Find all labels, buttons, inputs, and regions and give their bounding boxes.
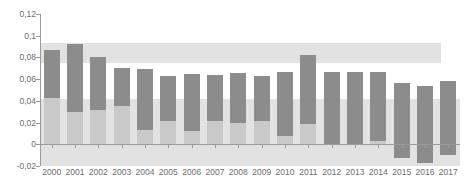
x-axis-tick — [355, 144, 356, 148]
y-axis-tick-label: -0,02 — [17, 162, 36, 171]
x-axis-tick — [308, 144, 309, 148]
x-axis-tick-label: 2015 — [390, 168, 413, 177]
bar-group — [114, 14, 130, 166]
bar-segment-upper — [114, 68, 130, 106]
x-axis-tick-label: 2011 — [297, 168, 320, 177]
y-axis-tick-label: 0,02 — [19, 119, 36, 128]
x-axis-tick — [52, 144, 53, 148]
x-axis-tick — [448, 144, 449, 148]
bar-segment-lower — [300, 124, 316, 145]
bar-segment-upper — [417, 86, 433, 163]
plot-area — [40, 14, 460, 166]
bar-segment-upper — [347, 72, 363, 145]
x-axis-tick — [122, 144, 123, 148]
bar-segment-upper — [184, 74, 200, 132]
bar-segment-lower — [207, 121, 223, 144]
x-axis-tick — [98, 144, 99, 148]
bar-segment-lower — [230, 123, 246, 145]
bar-segment-upper — [254, 76, 270, 122]
y-axis-tick-label: 0,06 — [19, 75, 36, 84]
bar-group — [300, 14, 316, 166]
y-axis-tick — [36, 166, 40, 167]
x-axis-tick — [75, 144, 76, 148]
y-axis-tick — [36, 101, 40, 102]
bar-group — [370, 14, 386, 166]
x-axis-tick-label: 2013 — [343, 168, 366, 177]
bar-segment-upper — [207, 75, 223, 122]
x-axis-tick — [262, 144, 263, 148]
bar-segment-upper — [324, 72, 340, 145]
x-axis-tick-label: 2002 — [87, 168, 110, 177]
bar-group — [90, 14, 106, 166]
bar-segment-upper — [44, 50, 60, 98]
x-axis-tick-label: 2000 — [40, 168, 63, 177]
bar-segment-lower — [90, 110, 106, 145]
x-axis-tick — [378, 144, 379, 148]
zero-axis-line — [40, 144, 460, 145]
bar-group — [207, 14, 223, 166]
x-axis-tick-label: 2014 — [367, 168, 390, 177]
x-axis-labels: 2000200120022003200420052006200720082009… — [40, 168, 460, 184]
y-axis-tick — [36, 123, 40, 124]
bar-group — [417, 14, 433, 166]
y-axis-tick — [36, 79, 40, 80]
x-axis-tick — [145, 144, 146, 148]
x-axis-tick-label: 2007 — [203, 168, 226, 177]
y-axis-tick-label: 0,08 — [19, 53, 36, 62]
y-axis-tick — [36, 14, 40, 15]
bar-group — [394, 14, 410, 166]
x-axis-tick-label: 2016 — [413, 168, 436, 177]
bar-group — [324, 14, 340, 166]
x-axis-tick — [215, 144, 216, 148]
y-axis-tick — [36, 144, 40, 145]
bar-chart: 0,120,10,080,060,040,020-0,02 2000200120… — [0, 0, 466, 191]
bar-segment-lower — [114, 106, 130, 144]
y-axis-tick-label: 0,12 — [19, 10, 36, 19]
bar-group — [254, 14, 270, 166]
x-axis-tick — [425, 144, 426, 148]
bar-group — [277, 14, 293, 166]
bar-group — [184, 14, 200, 166]
bar-segment-upper — [277, 72, 293, 136]
x-axis-tick — [285, 144, 286, 148]
x-axis-tick — [168, 144, 169, 148]
bar-segment-lower — [277, 136, 293, 145]
x-axis-tick-label: 2010 — [273, 168, 296, 177]
x-axis-tick — [402, 144, 403, 148]
bar-group — [160, 14, 176, 166]
bar-group — [44, 14, 60, 166]
y-axis-labels: 0,120,10,080,060,040,020-0,02 — [0, 14, 36, 166]
bar-segment-upper — [67, 44, 83, 111]
x-axis-tick-label: 2004 — [133, 168, 156, 177]
x-axis-tick-label: 2009 — [250, 168, 273, 177]
x-axis-tick-label: 2017 — [437, 168, 460, 177]
bar-segment-upper — [370, 72, 386, 141]
y-axis-tick-label: 0,1 — [24, 32, 36, 41]
bar-segment-upper — [230, 73, 246, 123]
bar-segment-lower — [44, 98, 60, 145]
bar-segment-upper — [90, 57, 106, 109]
x-axis-tick — [192, 144, 193, 148]
y-axis-tick — [36, 36, 40, 37]
bar-segment-lower — [160, 121, 176, 144]
y-axis-line — [40, 14, 41, 166]
bar-segment-lower — [137, 130, 153, 144]
x-axis-tick-label: 2005 — [157, 168, 180, 177]
bar-group — [67, 14, 83, 166]
bar-segment-lower — [184, 131, 200, 144]
x-axis-tick — [238, 144, 239, 148]
bar-segment-upper — [137, 69, 153, 130]
bar-segment-upper — [160, 76, 176, 122]
bar-group — [230, 14, 246, 166]
bar-segment-lower — [254, 121, 270, 144]
x-axis-tick-label: 2006 — [180, 168, 203, 177]
x-axis-tick-label: 2008 — [227, 168, 250, 177]
y-axis-tick-label: 0,04 — [19, 97, 36, 106]
bar-group — [440, 14, 456, 166]
x-axis-tick-label: 2003 — [110, 168, 133, 177]
bar-group — [347, 14, 363, 166]
bar-segment-lower — [67, 112, 83, 145]
bar-segment-upper — [300, 55, 316, 123]
x-axis-tick — [332, 144, 333, 148]
y-axis-tick — [36, 57, 40, 58]
